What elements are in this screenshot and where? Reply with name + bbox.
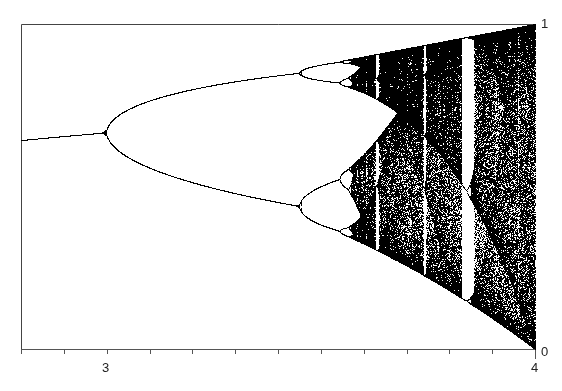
bifurcation-plot bbox=[0, 0, 562, 391]
y-tick-label-0: 0 bbox=[541, 345, 548, 358]
x-tick-label-4: 4 bbox=[531, 361, 538, 374]
y-tick-label-1: 1 bbox=[541, 17, 548, 30]
x-tick-label-3: 3 bbox=[102, 361, 109, 374]
